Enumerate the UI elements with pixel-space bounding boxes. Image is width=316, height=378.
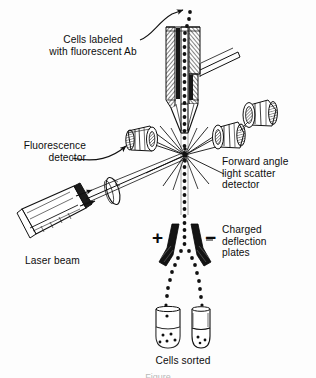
label-charged-deflection-plates: Charged deflection plates bbox=[222, 224, 312, 259]
sheath-fluid-inlet-tube bbox=[200, 48, 240, 77]
forward-scatter-detector-assembly bbox=[213, 122, 246, 149]
label-laser-beam: Laser beam bbox=[25, 255, 115, 267]
label-forward-scatter-detector: Forward angle light scatter detector bbox=[222, 156, 314, 191]
label-cells-sorted: Cells sorted bbox=[128, 355, 238, 367]
fluorescence-detector-assembly bbox=[126, 126, 158, 151]
collection-tube-left bbox=[156, 306, 180, 348]
figure-caption: Figure bbox=[0, 372, 316, 378]
collection-tube-right bbox=[192, 307, 210, 348]
laser-beam-path bbox=[82, 152, 185, 205]
plate-polarity-positive: + bbox=[152, 228, 163, 247]
facs-diagram: Cells labeled with fluorescent Ab Fluore… bbox=[0, 0, 316, 378]
label-fluorescence-detector: Fluorescence detector bbox=[2, 140, 86, 163]
label-cells-labeled: Cells labeled with fluorescent Ab bbox=[38, 34, 148, 57]
plate-polarity-negative: − bbox=[205, 228, 216, 247]
secondary-detector-assembly bbox=[240, 100, 277, 131]
laser-source bbox=[17, 183, 95, 238]
